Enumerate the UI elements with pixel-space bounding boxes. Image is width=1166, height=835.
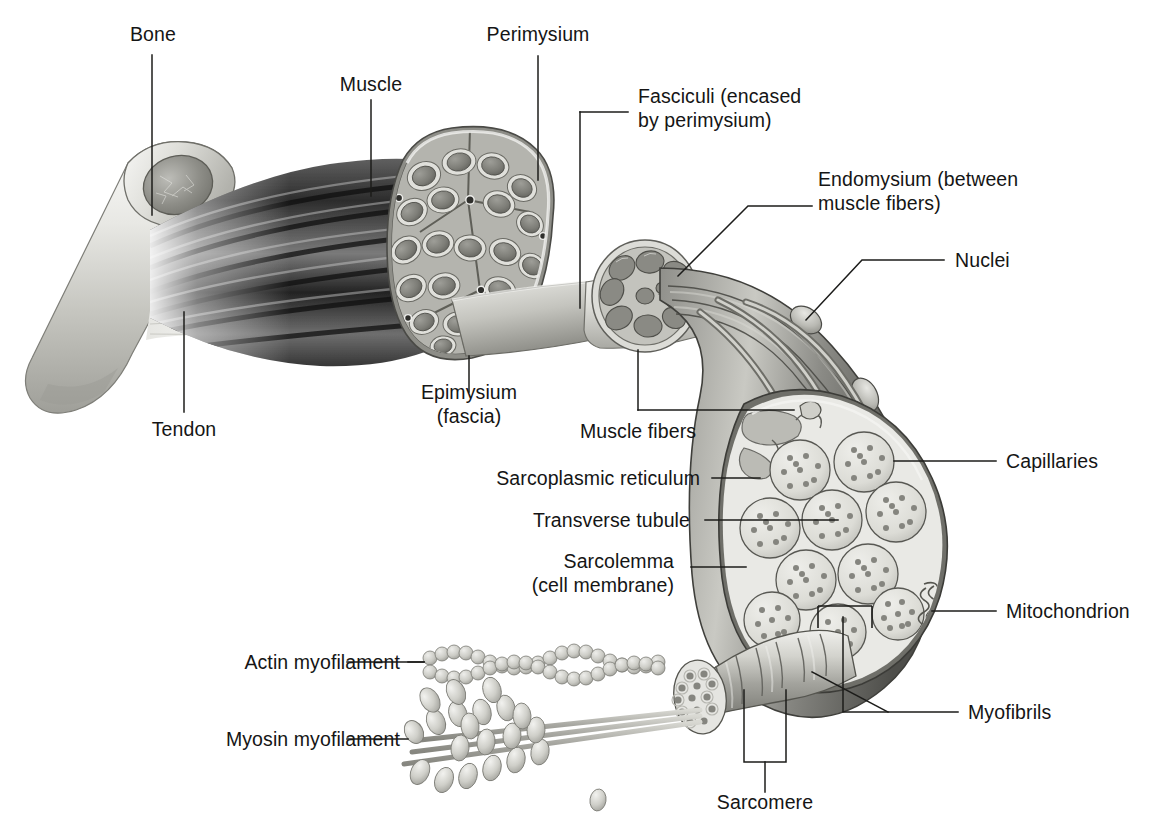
label-epimysium-line2: (fascia) bbox=[396, 404, 542, 428]
label-fasciculi-line2: by perimysium) bbox=[638, 108, 772, 132]
label-transverse-tubule: Transverse tubule bbox=[462, 508, 690, 532]
label-myosin-myofilament: Myosin myofilament bbox=[148, 727, 400, 751]
label-mitochondrion: Mitochondrion bbox=[1006, 599, 1130, 623]
leader-endomysium bbox=[678, 206, 812, 276]
myosin-myofilament bbox=[400, 675, 700, 812]
label-sarcolemma-line1: Sarcolemma bbox=[462, 549, 674, 573]
label-nuclei: Nuclei bbox=[955, 248, 1010, 272]
label-perimysium: Perimysium bbox=[478, 22, 598, 46]
label-capillaries: Capillaries bbox=[1006, 449, 1098, 473]
label-muscle-fibers: Muscle fibers bbox=[566, 419, 710, 443]
actin-myofilament bbox=[423, 644, 665, 686]
label-sarcolemma-line2: (cell membrane) bbox=[462, 573, 674, 597]
label-tendon: Tendon bbox=[128, 417, 240, 441]
label-fasciculi-line1: Fasciculi (encased bbox=[638, 84, 801, 108]
label-muscle: Muscle bbox=[325, 72, 417, 96]
label-actin-myofilament: Actin myofilament bbox=[188, 650, 400, 674]
leader-nuclei bbox=[806, 260, 944, 320]
label-endomysium-line2: muscle fibers) bbox=[818, 191, 941, 215]
figure-canvas: Bone Muscle Perimysium Fasciculi (encase… bbox=[0, 0, 1166, 835]
label-sarcoplasmic-reticulum: Sarcoplasmic reticulum bbox=[442, 466, 700, 490]
label-myofibrils: Myofibrils bbox=[968, 700, 1051, 724]
label-epimysium-line1: Epimysium bbox=[396, 380, 542, 404]
label-sarcomere: Sarcomere bbox=[700, 790, 830, 814]
label-bone: Bone bbox=[108, 22, 198, 46]
label-endomysium-line1: Endomysium (between bbox=[818, 167, 1018, 191]
